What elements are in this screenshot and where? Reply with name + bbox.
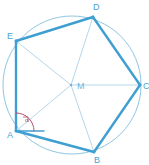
edge-CD <box>93 17 140 85</box>
edge-DE <box>16 17 93 41</box>
vertex-dot-E <box>15 40 18 43</box>
center-label-M: M <box>77 81 85 91</box>
angle-marker-group <box>16 113 44 131</box>
vertex-label-B: B <box>94 155 100 165</box>
vertex-dot-B <box>93 151 96 154</box>
radius-MD <box>71 17 93 85</box>
angle-label-alpha: α <box>25 117 29 123</box>
vertex-dot-A <box>15 130 18 133</box>
vertex-dot-C <box>139 84 142 87</box>
vertex-label-E: E <box>7 31 13 41</box>
radius-MB <box>71 85 94 152</box>
edge-BC <box>94 85 140 152</box>
geometry-figure: ABCDE M α <box>0 0 149 165</box>
vertex-label-C: C <box>143 81 149 91</box>
vertex-dot-D <box>92 16 95 19</box>
radius-ME <box>16 41 71 85</box>
figure-canvas: ABCDE M α <box>0 0 149 165</box>
center-dot-M <box>70 84 72 86</box>
vertex-label-D: D <box>93 2 100 12</box>
edge-AB <box>16 131 94 152</box>
radius-MA <box>16 85 71 131</box>
vertex-label-A: A <box>7 130 13 140</box>
